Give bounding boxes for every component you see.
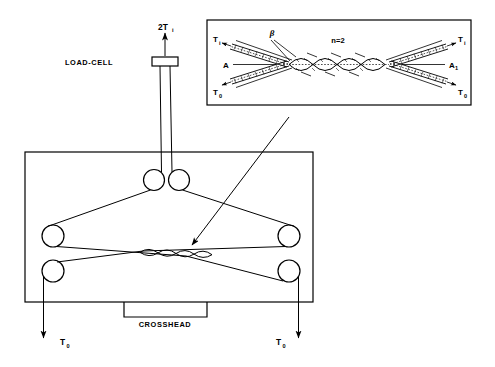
- inset-tension-out-right-label: T: [458, 88, 463, 97]
- inset-tension-in-right-label: T: [458, 35, 463, 44]
- inset-tension-in-left-subscript: i: [219, 40, 221, 46]
- inset-tension-in-right-subscript: i: [464, 40, 466, 46]
- inset-tension-out-right-subscript: 0: [464, 93, 467, 99]
- load-cell-force-label: 2T: [158, 22, 169, 32]
- output-tension-left-label: T: [60, 337, 66, 347]
- load-cell-block: [152, 33, 178, 172]
- pulley-bottom-left: [42, 260, 64, 282]
- pulley-mid-right: [278, 225, 300, 247]
- load-cell-force-subscript: i: [172, 27, 174, 33]
- inset-angle-label: β: [269, 28, 275, 38]
- yarn-path-right: [143, 190, 299, 338]
- pulley-top-left: [144, 170, 165, 191]
- inset-leader-arrow: [192, 117, 289, 245]
- pulley-mid-left: [42, 225, 64, 247]
- output-tension-right-subscript: 0: [283, 343, 286, 349]
- output-tension-right-label: T: [276, 337, 282, 347]
- crosshead-block: [124, 302, 207, 317]
- load-cell-label: LOAD-CELL: [65, 58, 113, 67]
- apparatus-frame: [25, 152, 313, 302]
- pulley-bottom-right: [278, 260, 300, 282]
- yarn-path-left: [44, 190, 284, 338]
- pulley-top-right: [169, 170, 190, 191]
- inset-tension-out-left-subscript: 0: [219, 93, 222, 99]
- inset-twist-helix: [289, 53, 389, 76]
- inset-strand-left-label: A: [223, 61, 229, 70]
- diagram-canvas: LOAD-CELL 2T i CROSSHEAD T 0 T 0 β n=2 T…: [0, 0, 495, 367]
- output-tension-left-subscript: 0: [67, 343, 70, 349]
- inset-tension-out-left-label: T: [213, 88, 218, 97]
- figure-root: LOAD-CELL 2T i CROSSHEAD T 0 T 0 β n=2 T…: [0, 0, 495, 367]
- crosshead-label: CROSSHEAD: [139, 320, 192, 329]
- inset-strand-right-subscript: 1: [455, 65, 458, 71]
- inset-twist-count-label: n=2: [331, 36, 344, 45]
- inset-tension-in-left-label: T: [213, 35, 218, 44]
